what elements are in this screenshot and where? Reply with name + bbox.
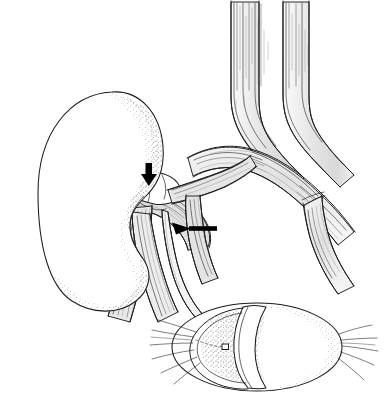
ureteral-orifice-marker — [222, 344, 229, 350]
illustration-root: Renal vasculature and bladder surgical i… — [0, 0, 387, 401]
anatomical-illustration: Renal vasculature and bladder surgical i… — [0, 0, 387, 401]
